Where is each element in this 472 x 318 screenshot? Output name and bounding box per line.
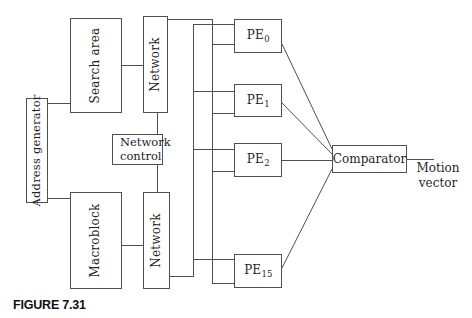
- network-bottom-label: Network: [150, 213, 163, 267]
- motion-vector-label-line2: vector: [412, 176, 464, 191]
- pe2-label: PE2: [247, 153, 269, 167]
- search-area-label: Search area: [90, 28, 103, 104]
- network-top-box: Network: [143, 16, 168, 113]
- address-generator-box: Address generator: [26, 98, 48, 203]
- network-top-label: Network: [149, 37, 162, 91]
- comparator-box: Comparator: [332, 145, 407, 173]
- pe2-box: PE2: [234, 143, 282, 177]
- macroblock-label: Macroblock: [90, 204, 103, 278]
- wire-pe15-comparator: [282, 169, 332, 268]
- bus-network-bottom: [170, 24, 234, 276]
- motion-vector-label: Motion vector: [412, 161, 464, 191]
- diagram-canvas: Address generator Search area Macroblock…: [0, 0, 472, 318]
- motion-vector-label-line1: Motion: [412, 161, 464, 176]
- pe15-label: PE15: [244, 264, 272, 278]
- search-area-box: Search area: [70, 18, 122, 113]
- wire-pe0-comparator: [282, 44, 332, 149]
- network-bottom-box: Network: [143, 192, 170, 289]
- pe15-box: PE15: [234, 254, 282, 288]
- wire-pe1-comparator: [282, 103, 332, 154]
- pe1-box: PE1: [234, 84, 282, 117]
- macroblock-box: Macroblock: [70, 192, 122, 289]
- pe0-box: PE0: [234, 19, 282, 53]
- figure-caption: FIGURE 7.31: [13, 298, 86, 312]
- address-generator-label: Address generator: [31, 95, 44, 207]
- network-control-box: Network control: [112, 134, 163, 165]
- bus-network-top: [168, 19, 234, 283]
- network-control-label-line2: control: [120, 150, 162, 164]
- pe0-label: PE0: [247, 29, 269, 43]
- pe1-label: PE1: [247, 94, 269, 108]
- network-control-label-line1: Network: [120, 136, 171, 150]
- comparator-label: Comparator: [333, 153, 406, 166]
